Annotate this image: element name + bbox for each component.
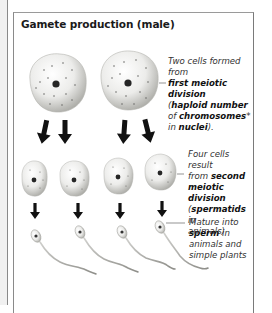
spermatid-cell-3 bbox=[104, 158, 133, 194]
caption-maturation: Mature into sperm in animals and simple … bbox=[189, 217, 253, 261]
arrow-down-icon bbox=[30, 203, 40, 219]
arrow-down-icon bbox=[35, 119, 54, 145]
caption-term: sperm bbox=[189, 228, 219, 238]
caption-line: Two cells formed from bbox=[168, 56, 254, 78]
arrow-down-icon bbox=[115, 203, 125, 219]
arrow-down-icon bbox=[73, 203, 83, 219]
sperm-2 bbox=[73, 224, 138, 272]
arrow-down-icon bbox=[138, 118, 157, 145]
caption-term: chromosomes bbox=[179, 111, 246, 121]
arrow-down-icon bbox=[58, 120, 72, 144]
division-arrows bbox=[35, 118, 158, 146]
caption-line: Mature into bbox=[189, 217, 253, 228]
spermatid-cell-1 bbox=[22, 161, 47, 196]
caption-line: simple plants bbox=[189, 250, 253, 261]
sperm-3 bbox=[115, 224, 175, 269]
maturation-arrows bbox=[30, 201, 167, 219]
spermatid-cell-4 bbox=[145, 154, 176, 190]
caption-line: animals and bbox=[189, 239, 253, 250]
nucleus-icon bbox=[52, 80, 59, 87]
caption-term: meiotic division bbox=[188, 182, 226, 203]
caption-term: second bbox=[211, 171, 245, 181]
arrow-down-icon bbox=[157, 201, 167, 217]
large-cell-2 bbox=[101, 51, 158, 110]
caption-line: Four cells result bbox=[188, 149, 254, 171]
large-cell-1 bbox=[30, 54, 86, 112]
sperm-1 bbox=[29, 228, 96, 274]
caption-term: haploid number bbox=[171, 100, 247, 110]
caption-term: nuclei bbox=[179, 122, 208, 132]
caption-first-division: Two cells formed from first meiotic divi… bbox=[168, 56, 254, 133]
caption-term: first meiotic division bbox=[168, 78, 227, 99]
caption-term: spermatids bbox=[191, 204, 245, 214]
arrow-down-icon bbox=[116, 120, 132, 145]
spermatid-cell-2 bbox=[60, 161, 89, 196]
nucleus-icon bbox=[124, 79, 131, 86]
